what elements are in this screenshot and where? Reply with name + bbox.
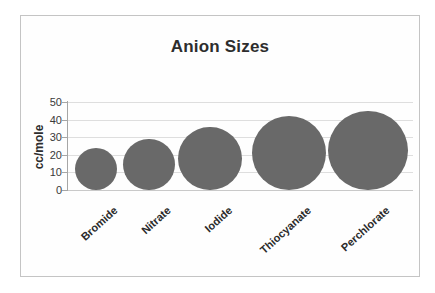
y-tick-label-20: 20 [38, 149, 62, 161]
bubble-nitrate [123, 139, 174, 190]
y-tick-label-30: 30 [38, 131, 62, 143]
y-tick-label-50: 50 [38, 96, 62, 108]
gridline-50 [67, 102, 413, 103]
chart-image: Anion Sizes cc/mole 01020304050BromideNi… [0, 0, 435, 293]
y-tick-label-40: 40 [38, 114, 62, 126]
bubble-bromide [75, 148, 117, 190]
bubble-thiocyanate [252, 116, 326, 190]
bubble-iodide [178, 127, 241, 190]
y-tick-label-10: 10 [38, 166, 62, 178]
bubble-perchlorate [328, 111, 407, 190]
y-tick-label-0: 0 [38, 184, 62, 196]
y-axis-line [67, 101, 68, 191]
gridline-0 [67, 190, 413, 191]
chart-title: Anion Sizes [20, 37, 420, 57]
